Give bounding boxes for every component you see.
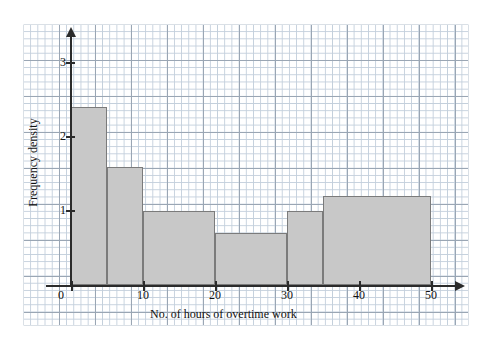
- y-axis-line: [70, 36, 72, 286]
- x-tick-label: 30: [272, 289, 302, 301]
- plot-area: 1 2 3 0 10 20 30 40 50 Frequency density…: [0, 0, 486, 345]
- histogram-bar: [71, 107, 107, 285]
- y-tick: 3: [0, 56, 66, 68]
- x-tick-label: 20: [200, 289, 230, 301]
- y-tick-label: 1: [50, 204, 66, 216]
- x-tick-label: 0: [46, 289, 76, 301]
- histogram-bar: [323, 196, 431, 285]
- x-tick-label: 50: [416, 289, 446, 301]
- y-tick-mark: [66, 136, 75, 138]
- y-axis-title: Frequency density: [26, 103, 41, 223]
- histogram-bar: [107, 167, 143, 285]
- histogram-bar: [143, 211, 215, 285]
- x-axis-line: [46, 285, 456, 287]
- y-tick-label: 2: [50, 130, 66, 142]
- x-axis-title: No. of hours of overtime work: [150, 307, 297, 322]
- y-tick-mark: [66, 62, 75, 64]
- y-tick-label: 3: [50, 56, 66, 68]
- histogram-bar: [287, 211, 323, 285]
- y-tick-mark: [66, 210, 75, 212]
- x-axis-arrow-icon: [455, 281, 465, 291]
- histogram-bar: [215, 233, 287, 285]
- x-tick-label: 40: [344, 289, 374, 301]
- histogram-figure: 1 2 3 0 10 20 30 40 50 Frequency density…: [0, 0, 486, 345]
- y-axis-arrow-icon: [66, 27, 76, 37]
- x-tick-label: 10: [128, 289, 158, 301]
